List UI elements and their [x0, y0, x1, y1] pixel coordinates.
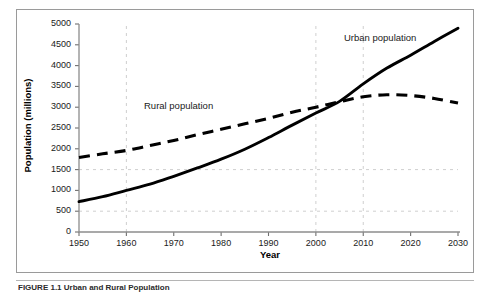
- y-tick-label: 500: [37, 205, 71, 215]
- x-tick-label: 1990: [249, 238, 289, 248]
- x-axis-title: Year: [230, 249, 310, 260]
- x-tick-label: 2000: [296, 238, 336, 248]
- x-tick-label: 1970: [154, 238, 194, 248]
- axis-ticks: [75, 24, 458, 236]
- x-tick-label: 1960: [106, 238, 146, 248]
- figure-caption: FIGURE 1.1 Urban and Rural Population: [18, 283, 488, 292]
- y-tick-label: 3000: [37, 101, 71, 111]
- y-tick-label: 1500: [37, 164, 71, 174]
- y-tick-label: 4000: [37, 60, 71, 70]
- x-tick-label: 2010: [343, 238, 383, 248]
- gridlines: [79, 26, 458, 232]
- x-tick-label: 1950: [59, 238, 99, 248]
- x-tick-label: 2020: [391, 238, 431, 248]
- caption-divider: [16, 280, 474, 281]
- x-tick-label: 2030: [438, 238, 478, 248]
- rural-population-label: Rural population: [144, 100, 213, 111]
- x-tick-label: 1980: [201, 238, 241, 248]
- y-tick-label: 0: [37, 226, 71, 236]
- series-line-rural: [79, 95, 458, 158]
- y-tick-label: 2000: [37, 143, 71, 153]
- y-tick-label: 1000: [37, 184, 71, 194]
- y-tick-label: 2500: [37, 122, 71, 132]
- y-tick-label: 4500: [37, 39, 71, 49]
- y-tick-label: 5000: [37, 18, 71, 28]
- series-line-urban: [79, 28, 458, 201]
- y-axis-title: Population (millions): [22, 61, 33, 191]
- urban-population-label: Urban population: [344, 32, 416, 43]
- y-tick-label: 3500: [37, 80, 71, 90]
